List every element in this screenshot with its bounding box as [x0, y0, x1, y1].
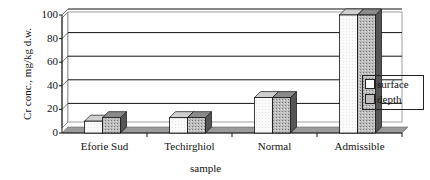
- x-tick-label: Normal: [235, 140, 315, 152]
- bar-depth: [273, 92, 297, 133]
- depth-swatch-icon: [365, 94, 375, 104]
- y-tick-label: 100: [32, 8, 58, 20]
- y-tick-label: 40: [32, 79, 58, 91]
- legend-item-depth: depth: [363, 91, 423, 106]
- x-tick-label: Admissible: [320, 140, 400, 152]
- y-axis-label: Cr conc., mg/kg d.w.: [21, 9, 33, 139]
- chart: Cr conc., mg/kg d.w. 020406080100 Eforie…: [0, 0, 430, 180]
- x-tick-label: Eforie Sud: [65, 140, 145, 152]
- x-tick-label: Techirghiol: [150, 140, 230, 152]
- bar-depth: [103, 112, 127, 133]
- x-axis-label: sample: [190, 162, 221, 174]
- legend: surface depth: [362, 75, 424, 110]
- legend-item-surface: surface: [363, 76, 423, 91]
- y-tick-label: 60: [32, 55, 58, 67]
- y-tick-label: 0: [32, 126, 58, 138]
- y-tick-label: 80: [32, 32, 58, 44]
- y-tick-label: 20: [32, 102, 58, 114]
- bar-depth: [358, 9, 382, 133]
- surface-swatch-icon: [365, 79, 375, 89]
- bar-depth: [188, 112, 212, 133]
